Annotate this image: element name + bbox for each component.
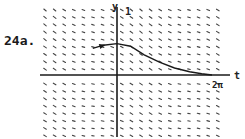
slope-mark bbox=[178, 128, 181, 129]
slope-mark bbox=[188, 24, 191, 25]
slope-mark bbox=[82, 91, 85, 92]
slope-mark bbox=[207, 135, 210, 136]
slope-mark bbox=[169, 69, 172, 70]
slope-mark bbox=[82, 113, 85, 114]
slope-mark bbox=[53, 61, 56, 63]
slope-mark bbox=[63, 98, 66, 99]
slope-mark bbox=[140, 128, 143, 130]
slope-mark bbox=[44, 91, 47, 93]
slope-mark bbox=[149, 31, 152, 33]
slope-mark bbox=[197, 113, 200, 114]
slope-mark bbox=[149, 46, 152, 48]
slope-mark bbox=[121, 9, 124, 11]
slope-mark bbox=[111, 121, 114, 122]
slope-mark bbox=[73, 91, 76, 92]
slope-mark bbox=[82, 61, 85, 62]
slope-mark bbox=[197, 128, 200, 129]
slope-mark bbox=[188, 69, 191, 70]
slope-mark bbox=[207, 32, 210, 33]
slope-mark bbox=[121, 98, 124, 99]
slope-mark bbox=[207, 24, 210, 25]
slope-mark bbox=[159, 46, 162, 47]
slope-mark bbox=[169, 47, 172, 48]
slope-mark bbox=[217, 61, 220, 62]
slope-mark bbox=[159, 69, 162, 70]
slope-mark bbox=[149, 54, 152, 56]
slope-mark bbox=[169, 84, 172, 85]
slope-mark bbox=[92, 54, 95, 55]
slope-mark bbox=[73, 135, 76, 136]
slope-mark bbox=[121, 91, 124, 92]
slope-mark bbox=[73, 32, 76, 33]
slope-mark bbox=[188, 32, 191, 33]
slope-mark bbox=[111, 32, 114, 33]
slope-mark bbox=[197, 39, 200, 40]
slope-mark bbox=[130, 24, 133, 26]
slope-mark bbox=[188, 17, 191, 18]
slope-mark bbox=[169, 106, 172, 107]
slope-mark bbox=[159, 113, 162, 114]
slope-mark bbox=[63, 106, 66, 107]
slope-mark bbox=[149, 83, 152, 85]
slope-mark bbox=[217, 91, 220, 92]
slope-mark bbox=[63, 61, 66, 62]
slope-mark bbox=[197, 121, 200, 122]
slope-mark bbox=[82, 39, 85, 40]
slope-mark bbox=[159, 91, 162, 92]
slope-mark bbox=[101, 128, 104, 129]
slope-mark bbox=[207, 39, 210, 40]
slope-mark bbox=[92, 91, 95, 92]
slope-mark bbox=[149, 128, 152, 129]
slope-mark bbox=[169, 91, 172, 92]
slope-mark bbox=[207, 113, 210, 114]
slope-mark bbox=[101, 99, 104, 100]
slope-mark bbox=[63, 91, 66, 92]
slope-mark bbox=[101, 106, 104, 107]
slope-mark bbox=[101, 91, 104, 92]
slope-mark bbox=[53, 9, 55, 11]
slope-mark bbox=[53, 68, 56, 70]
slope-mark bbox=[44, 61, 47, 63]
slope-mark bbox=[140, 31, 142, 33]
slope-mark bbox=[111, 17, 114, 18]
slope-mark bbox=[169, 9, 172, 10]
slope-mark bbox=[82, 47, 85, 48]
slope-mark bbox=[63, 83, 66, 84]
slope-mark bbox=[63, 54, 66, 55]
slope-mark bbox=[63, 17, 66, 19]
slope-mark bbox=[197, 69, 200, 70]
slope-mark bbox=[121, 17, 124, 19]
slope-mark bbox=[188, 54, 191, 55]
slope-mark bbox=[111, 39, 114, 40]
slope-mark bbox=[197, 32, 200, 33]
slope-mark bbox=[82, 84, 85, 85]
slope-mark bbox=[44, 46, 47, 48]
slope-mark bbox=[101, 84, 104, 85]
slope-mark bbox=[149, 105, 152, 107]
slope-mark bbox=[217, 135, 220, 136]
slope-mark bbox=[44, 128, 47, 130]
slope-mark bbox=[101, 24, 104, 25]
slope-mark bbox=[130, 91, 133, 93]
slope-mark bbox=[149, 120, 152, 122]
slope-mark bbox=[53, 105, 56, 107]
slope-mark bbox=[140, 24, 142, 26]
slope-mark bbox=[217, 46, 220, 48]
slope-mark bbox=[217, 54, 220, 56]
slope-mark bbox=[63, 69, 66, 70]
slope-mark bbox=[63, 39, 66, 41]
problem-label: 24a. bbox=[4, 33, 35, 48]
slope-mark bbox=[140, 98, 143, 100]
slope-mark bbox=[73, 98, 76, 99]
slope-mark bbox=[111, 54, 114, 55]
slope-mark bbox=[188, 62, 191, 63]
slope-mark bbox=[63, 128, 66, 129]
slope-mark bbox=[82, 136, 85, 137]
slope-field-figure: 24a. y 1 t 2π bbox=[0, 0, 245, 139]
slope-mark bbox=[217, 39, 220, 41]
slope-mark bbox=[169, 121, 172, 122]
slope-mark bbox=[159, 98, 162, 99]
slope-mark bbox=[130, 68, 133, 70]
slope-mark bbox=[217, 106, 220, 107]
slope-mark bbox=[159, 17, 162, 19]
